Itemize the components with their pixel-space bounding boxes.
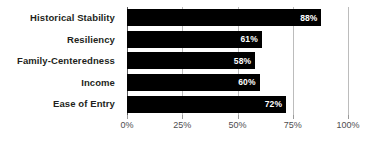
category-label: Ease of Entry xyxy=(53,99,115,109)
bars-layer: 88% 61% 58% 60% 72% xyxy=(127,7,348,115)
value-axis: 0%25%50%75%100% xyxy=(127,115,348,145)
bar-chart: Historical Stability Resiliency Family-C… xyxy=(0,0,374,150)
bar[interactable]: 58% xyxy=(127,52,255,69)
bar-row: 72% xyxy=(127,93,348,115)
category-label-row: Historical Stability xyxy=(0,7,121,29)
axis-tick-mark xyxy=(238,115,239,119)
bar-row: 58% xyxy=(127,50,348,72)
category-axis: Historical Stability Resiliency Family-C… xyxy=(0,7,121,115)
category-label-row: Family-Centeredness xyxy=(0,50,121,72)
category-label-row: Ease of Entry xyxy=(0,93,121,115)
axis-tick-mark xyxy=(293,115,294,119)
bar[interactable]: 88% xyxy=(127,9,321,26)
bar-value-label: 72% xyxy=(265,100,282,109)
bar[interactable]: 72% xyxy=(127,96,286,113)
category-label: Income xyxy=(81,78,115,88)
category-label-row: Income xyxy=(0,72,121,94)
category-label-row: Resiliency xyxy=(0,29,121,51)
bar[interactable]: 61% xyxy=(127,31,262,48)
bar-value-label: 58% xyxy=(234,57,251,66)
category-label: Resiliency xyxy=(67,35,115,45)
bar-row: 61% xyxy=(127,29,348,51)
category-label: Historical Stability xyxy=(30,13,115,23)
bar-value-label: 88% xyxy=(300,14,317,23)
gridline xyxy=(348,7,349,115)
axis-tick-mark xyxy=(348,115,349,119)
bar-row: 88% xyxy=(127,7,348,29)
axis-tick-mark xyxy=(127,115,128,119)
plot-area: 88% 61% 58% 60% 72% xyxy=(127,7,348,115)
axis-tick-label: 0% xyxy=(120,121,133,130)
axis-tick-label: 50% xyxy=(228,121,246,130)
category-label: Family-Centeredness xyxy=(17,56,115,66)
axis-tick-mark xyxy=(182,115,183,119)
bar[interactable]: 60% xyxy=(127,74,260,91)
bar-value-label: 61% xyxy=(240,35,257,44)
axis-tick-label: 75% xyxy=(284,121,302,130)
bar-value-label: 60% xyxy=(238,78,255,87)
axis-tick-label: 25% xyxy=(173,121,191,130)
axis-tick-label: 100% xyxy=(336,121,359,130)
bar-row: 60% xyxy=(127,72,348,94)
